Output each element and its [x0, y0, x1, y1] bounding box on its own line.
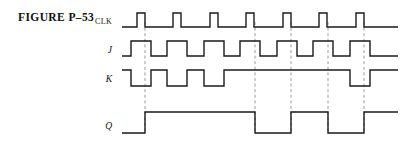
waveform-group [122, 13, 398, 133]
figure-timing-diagram: FIGURE P–53 CLK J K Q [0, 0, 405, 144]
waveform-j [122, 41, 398, 56]
waveform-plot-area [0, 0, 405, 144]
waveform-k [122, 70, 398, 86]
waveform-q [122, 112, 398, 133]
waveform-clk [122, 13, 398, 27]
